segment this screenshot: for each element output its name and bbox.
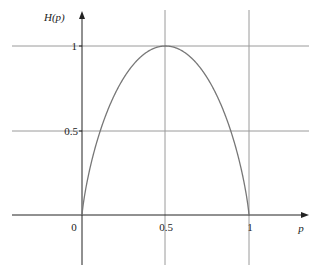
y-axis-label: H(p)	[43, 11, 65, 24]
y-tick-label-1: 1	[72, 40, 78, 52]
x-axis-arrow-icon	[301, 212, 309, 218]
entropy-chart: H(p) 1 0.5 0 0.5 1 p	[0, 0, 316, 277]
x-tick-label-0.5: 0.5	[159, 221, 173, 233]
x-tick-label-1: 1	[247, 221, 253, 233]
x-axis-label: p	[297, 222, 304, 234]
y-axis-arrow-icon	[79, 11, 85, 19]
y-tick-label-0.5: 0.5	[64, 125, 78, 137]
x-tick-label-0: 0	[71, 221, 77, 233]
